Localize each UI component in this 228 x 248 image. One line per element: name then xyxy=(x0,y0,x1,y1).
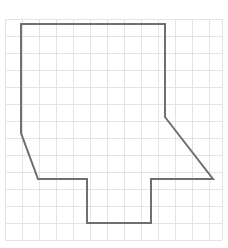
figure-background xyxy=(0,0,228,248)
figure-canvas xyxy=(0,0,228,248)
grid-polygon-figure xyxy=(0,0,228,248)
